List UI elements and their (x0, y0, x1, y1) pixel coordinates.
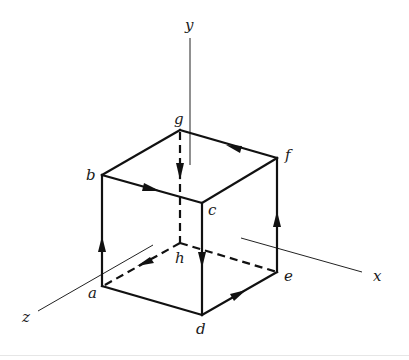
edge-a-d (102, 286, 202, 315)
vertex-label-d: d (196, 320, 206, 338)
vertex-label-g: g (174, 110, 184, 128)
cube-diagram: y x z g f b c h e a d (0, 0, 409, 360)
arrow-up-icon (98, 236, 106, 252)
arrow-up-icon (273, 211, 281, 227)
vertex-label-h: h (175, 249, 185, 267)
edge-c-f (202, 158, 277, 203)
vertex-label-c: c (208, 201, 217, 219)
arrow-left-icon (226, 145, 242, 153)
vertex-label-b: b (86, 166, 96, 184)
x-axis-label: x (373, 267, 382, 285)
z-axis-label: z (21, 308, 30, 326)
y-axis-label: y (184, 16, 194, 34)
edge-h-e-hidden (180, 243, 277, 272)
edge-b-g (102, 130, 180, 175)
arrow-down-icon (198, 252, 206, 268)
vertex-label-f: f (284, 146, 293, 164)
arrow-right-icon (142, 183, 160, 191)
edge-g-f (180, 130, 277, 158)
vertex-label-a: a (88, 284, 97, 302)
arrow-right-up-icon (230, 290, 246, 301)
bottom-rule (0, 355, 409, 356)
vertex-label-e: e (284, 267, 293, 285)
arrow-down-icon (176, 163, 184, 180)
